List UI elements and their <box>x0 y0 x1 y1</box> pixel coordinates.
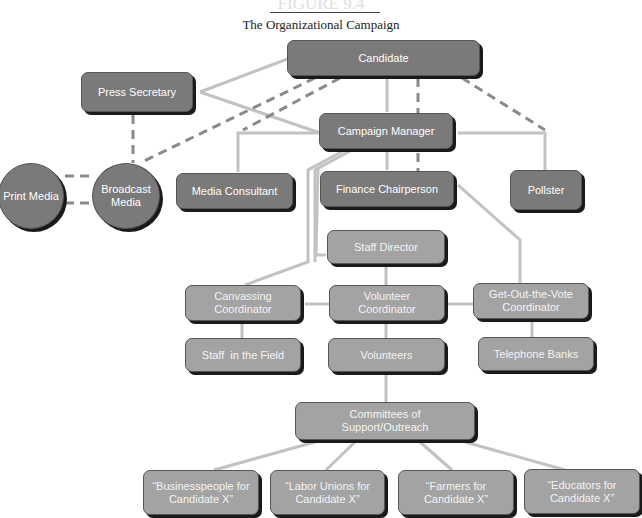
node-staff-director: Staff Director <box>327 230 445 264</box>
node-labor-unions: “Labor Unions for Candidate X” <box>270 470 385 515</box>
node-volunteers: Volunteers <box>328 338 445 372</box>
node-volunteer-coordinator: Volunteer Coordinator <box>329 285 445 321</box>
node-businesspeople: “Businesspeople for Candidate X” <box>143 470 259 515</box>
node-pollster: Pollster <box>510 170 582 210</box>
node-print-media: Print Media <box>0 163 64 229</box>
node-broadcast-media: Broadcast Media <box>92 163 160 229</box>
node-educators: “Educators for Candidate X” <box>524 469 640 514</box>
node-finance-chairperson: Finance Chairperson <box>320 171 454 207</box>
node-farmers: “Farmers for Candidate X” <box>398 470 514 515</box>
node-candidate: Candidate <box>287 40 480 76</box>
node-media-consultant: Media Consultant <box>176 173 293 209</box>
node-staff-in-field: Staff in the Field <box>185 338 301 372</box>
node-gotv-coordinator: Get-Out-the-Vote Coordinator <box>473 283 589 319</box>
node-telephone-banks: Telephone Banks <box>478 337 594 371</box>
node-campaign-manager: Campaign Manager <box>319 113 453 149</box>
node-press-secretary: Press Secretary <box>81 72 193 112</box>
node-committees: Committees of Support/Outreach <box>295 402 475 440</box>
node-canvassing-coordinator: Canvassing Coordinator <box>185 285 301 321</box>
